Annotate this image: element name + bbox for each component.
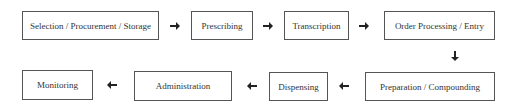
step-label: Monitoring (37, 80, 78, 90)
step-label: Administration (156, 81, 211, 91)
step-label: Order Processing / Entry (395, 21, 484, 31)
step-monitoring: Monitoring (22, 70, 93, 100)
step-transcription: Transcription (284, 11, 349, 40)
step-selection-procurement-storage: Selection / Procurement / Storage (22, 11, 159, 40)
arrow-left-icon (106, 79, 118, 91)
step-dispensing: Dispensing (269, 72, 328, 101)
arrow-left-icon (338, 80, 350, 92)
step-label: Prescribing (202, 21, 243, 31)
step-prescribing: Prescribing (191, 11, 253, 40)
arrow-down-icon (449, 50, 461, 62)
step-administration: Administration (134, 71, 232, 101)
step-label: Dispensing (278, 82, 319, 92)
arrow-right-icon (358, 20, 370, 32)
step-label: Selection / Procurement / Storage (30, 21, 151, 31)
step-preparation-compounding: Preparation / Compounding (365, 72, 495, 101)
arrow-left-icon (246, 80, 258, 92)
step-label: Preparation / Compounding (380, 82, 480, 92)
step-label: Transcription (292, 21, 340, 31)
arrow-right-icon (262, 20, 274, 32)
arrow-right-icon (169, 20, 181, 32)
step-order-processing-entry: Order Processing / Entry (384, 11, 495, 40)
